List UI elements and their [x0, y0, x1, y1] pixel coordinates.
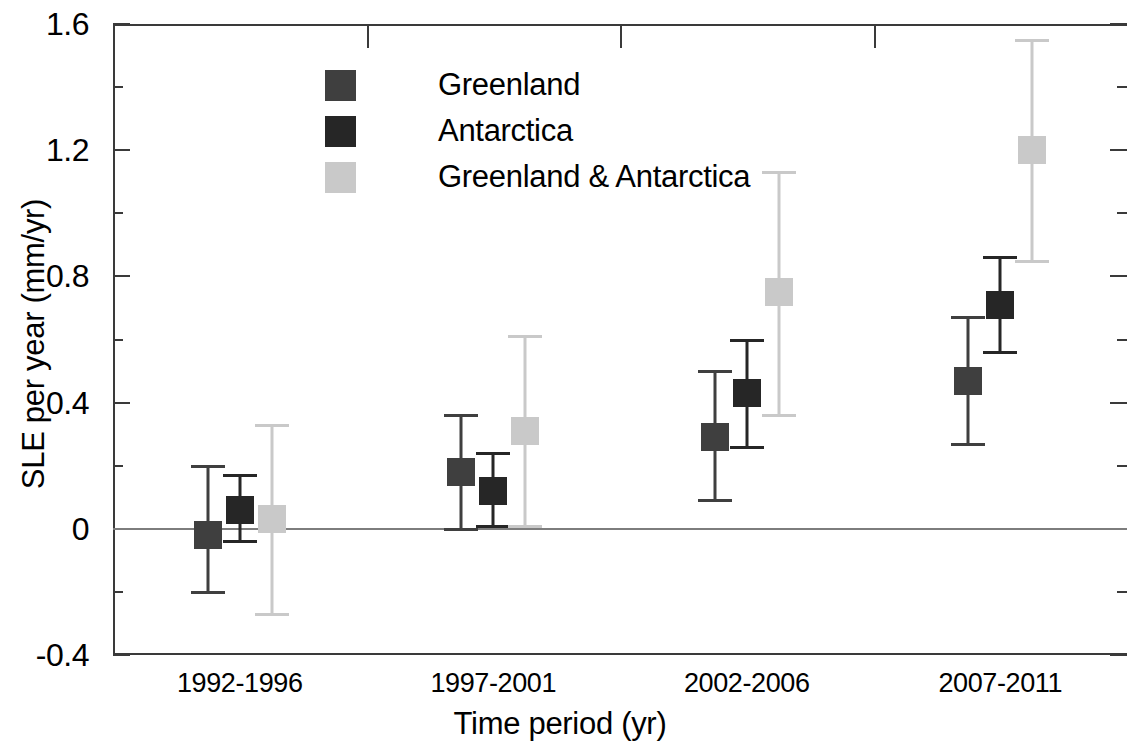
- x-tick-label: 2002-2006: [684, 668, 810, 699]
- y-axis-minor-tick: [1117, 591, 1127, 593]
- error-bar-cap-upper: [444, 414, 478, 417]
- legend-label: Greenland: [438, 67, 580, 103]
- error-bar-cap-lower: [762, 414, 796, 417]
- y-axis-tick-labels: 1.61.20.80.40-0.4: [0, 24, 101, 655]
- y-axis-major-tick: [113, 275, 130, 277]
- error-bar-cap-lower: [730, 446, 764, 449]
- y-axis-minor-tick: [1117, 86, 1127, 88]
- data-point-marker: [447, 458, 475, 486]
- legend-swatch-icon: [325, 116, 356, 147]
- y-axis-major-tick: [1110, 654, 1127, 656]
- y-axis-major-tick: [113, 23, 130, 25]
- x-tick-label: 2007-2011: [938, 668, 1062, 699]
- data-point-marker: [479, 477, 507, 505]
- x-axis-tick-labels: 1992-19961997-20012002-20062007-2011: [113, 668, 1127, 708]
- y-axis-major-tick: [1110, 149, 1127, 151]
- error-bar-cap-upper: [951, 316, 985, 319]
- error-bar-cap-upper: [762, 171, 796, 174]
- x-axis-label: Time period (yr): [110, 706, 1010, 742]
- error-bar-cap-upper: [255, 424, 289, 427]
- y-axis-minor-tick: [113, 591, 123, 593]
- data-point-marker: [701, 423, 729, 451]
- legend-label: Antarctica: [438, 113, 573, 149]
- chart-legend: GreenlandAntarcticaGreenland & Antarctic…: [325, 66, 750, 196]
- legend-item: Greenland & Antarctica: [325, 158, 750, 196]
- error-bar-cap-upper: [1015, 39, 1049, 42]
- y-axis-minor-tick: [1117, 465, 1127, 467]
- x-axis-tick: [367, 24, 369, 48]
- legend-swatch-icon: [325, 70, 356, 101]
- error-bar-cap-upper: [983, 256, 1017, 259]
- y-axis-major-tick: [1110, 23, 1127, 25]
- y-axis-minor-tick: [113, 86, 123, 88]
- error-bar-cap-upper: [476, 452, 510, 455]
- error-bar-cap-lower: [983, 351, 1017, 354]
- y-axis-major-tick: [113, 402, 130, 404]
- y-tick-label: 1.6: [46, 6, 89, 43]
- error-bar-cap-lower: [508, 525, 542, 528]
- legend-item: Greenland: [325, 66, 750, 104]
- y-axis-minor-tick: [1117, 212, 1127, 214]
- x-axis-tick: [874, 24, 876, 48]
- y-tick-label: -0.4: [36, 637, 89, 674]
- x-tick-label: 1992-1996: [177, 668, 303, 699]
- y-tick-label: 0.8: [46, 258, 89, 295]
- error-bar-cap-upper: [223, 474, 257, 477]
- error-bar-cap-upper: [191, 465, 225, 468]
- error-bar-cap-lower: [444, 528, 478, 531]
- error-bar-cap-lower: [698, 499, 732, 502]
- x-axis-tick: [620, 24, 622, 48]
- x-tick-label: 1997-2001: [430, 668, 556, 699]
- error-bar-cap-upper: [730, 339, 764, 342]
- y-axis-minor-tick: [113, 339, 123, 341]
- data-point-marker: [226, 496, 254, 524]
- data-point-marker: [954, 367, 982, 395]
- legend-label: Greenland & Antarctica: [438, 159, 750, 195]
- error-bar-cap-lower: [951, 443, 985, 446]
- data-point-marker: [511, 417, 539, 445]
- y-axis-major-tick: [1110, 402, 1127, 404]
- legend-swatch-icon: [325, 162, 356, 193]
- data-point-marker: [986, 291, 1014, 319]
- y-axis-major-tick: [113, 149, 130, 151]
- data-point-marker: [733, 379, 761, 407]
- y-tick-label: 0.4: [46, 384, 89, 421]
- error-bar-cap-lower: [476, 525, 510, 528]
- y-axis-major-tick: [1110, 275, 1127, 277]
- error-bar-cap-lower: [255, 613, 289, 616]
- y-tick-label: 0: [72, 510, 89, 547]
- data-point-marker: [1018, 136, 1046, 164]
- data-point-marker: [765, 278, 793, 306]
- chart-figure: SLE per year (mm/yr) Time period (yr) 1.…: [0, 0, 1127, 751]
- y-axis-minor-tick: [1117, 339, 1127, 341]
- error-bar-cap-lower: [191, 591, 225, 594]
- y-axis-major-tick: [113, 654, 130, 656]
- error-bar-cap-upper: [508, 335, 542, 338]
- y-axis-minor-tick: [113, 465, 123, 467]
- error-bar-cap-upper: [698, 370, 732, 373]
- legend-item: Antarctica: [325, 112, 750, 150]
- error-bar-cap-lower: [1015, 260, 1049, 263]
- y-tick-label: 1.2: [46, 132, 89, 169]
- axis-frame-bottom: [113, 653, 1127, 655]
- y-axis-minor-tick: [113, 212, 123, 214]
- error-bar-cap-lower: [223, 540, 257, 543]
- data-point-marker: [194, 521, 222, 549]
- data-point-marker: [258, 505, 286, 533]
